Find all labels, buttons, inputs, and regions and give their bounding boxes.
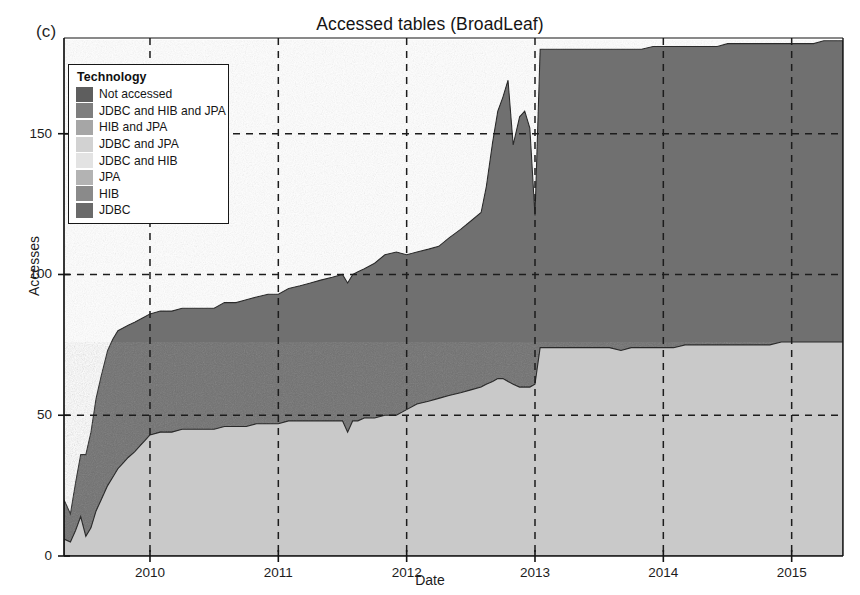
legend-swatch-icon [76,103,93,118]
legend-swatch-icon [76,203,93,218]
legend-swatch-icon [76,170,93,185]
legend-swatch-icon [76,186,93,201]
y-tick-label: 100 [8,266,52,281]
figure-accessed-tables-broadleaf: (c) Accessed tables (BroadLeaf) Accesses… [0,0,860,595]
x-tick-label: 2012 [372,565,442,580]
legend-item-label: HIB [99,188,119,200]
x-tick-label: 2015 [757,565,827,580]
legend-item[interactable]: HIB and JPA [76,119,222,136]
legend[interactable]: Technology Not accessedJDBC and HIB and … [68,64,229,224]
y-tick-label: 50 [8,407,52,422]
legend-item-label: JPA [99,171,120,183]
legend-title: Technology [77,70,222,84]
legend-item[interactable]: JDBC and JPA [76,136,222,153]
legend-swatch-icon [76,120,93,135]
legend-item[interactable]: JDBC and HIB and JPA [76,103,222,120]
y-tick-label: 150 [8,126,52,141]
legend-item[interactable]: JDBC and HIB [76,152,222,169]
x-tick-label: 2011 [243,565,313,580]
legend-swatch-icon [76,137,93,152]
legend-item-label: JDBC [99,204,131,216]
x-tick-label: 2014 [628,565,698,580]
legend-item-label: HIB and JPA [99,121,167,133]
legend-item[interactable]: JPA [76,169,222,186]
legend-item-label: JDBC and HIB [99,155,178,167]
x-tick-label: 2010 [115,565,185,580]
legend-rows: Not accessedJDBC and HIB and JPAHIB and … [76,86,222,219]
y-tick-label: 0 [8,548,52,563]
legend-item[interactable]: JDBC [76,202,222,219]
legend-swatch-icon [76,87,93,102]
legend-item-label: Not accessed [99,88,172,100]
legend-item[interactable]: Not accessed [76,86,222,103]
legend-swatch-icon [76,153,93,168]
legend-item-label: JDBC and JPA [99,138,179,150]
x-tick-label: 2013 [500,565,570,580]
legend-item[interactable]: HIB [76,186,222,203]
legend-item-label: JDBC and HIB and JPA [99,105,226,117]
